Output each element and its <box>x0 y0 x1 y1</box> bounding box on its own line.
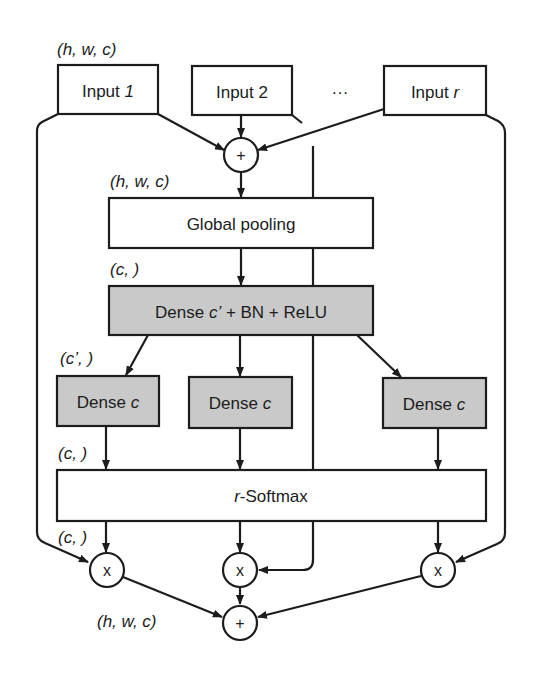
shape-label-after-dense: (c, ) <box>58 444 87 463</box>
multiply-icon: x <box>434 562 442 579</box>
dense-expand-block-r: Dense c <box>383 378 486 428</box>
svg-text:Dense c: Dense c <box>403 395 466 414</box>
dense-var: c’ <box>209 303 222 322</box>
dense-var: c <box>263 394 272 413</box>
svg-text:Input r: Input r <box>411 83 461 102</box>
global-pooling-block: Global pooling <box>109 198 373 248</box>
dense-label: Dense <box>77 393 131 412</box>
connectors <box>37 109 505 617</box>
sum-node-output: + <box>223 606 257 640</box>
input-label: Input <box>82 82 125 101</box>
input-label: Input <box>411 83 454 102</box>
svg-text:Input 2: Input 2 <box>216 83 268 102</box>
shape-label-after-pool: (c, ) <box>110 260 139 279</box>
shape-label-after-softmax: (c, ) <box>58 528 87 547</box>
svg-text:r-Softmax: r-Softmax <box>234 487 308 506</box>
input-index: 2 <box>259 83 268 102</box>
dense-reduce-block: Dense c’ + BN + ReLU <box>109 286 373 335</box>
dense-label: Dense <box>209 394 263 413</box>
mul-node-1: x <box>90 553 124 587</box>
softmax-label: -Softmax <box>240 487 309 506</box>
dense-label: Dense <box>403 395 457 414</box>
plus-icon: + <box>236 147 245 164</box>
global-pooling-label: Global pooling <box>187 215 296 234</box>
dense-var: c <box>131 393 140 412</box>
multiply-icon: x <box>103 562 111 579</box>
plus-icon: + <box>235 615 244 632</box>
shape-label-input: (h, w, c) <box>57 40 117 59</box>
input-label: Input <box>216 83 259 102</box>
sum-node-top: + <box>224 138 258 172</box>
svg-text:Dense c: Dense c <box>209 394 272 413</box>
dense-label: Dense <box>155 303 209 322</box>
dense-expand-block-2: Dense c <box>189 377 292 428</box>
shape-label-after-reduce: (c’, ) <box>60 349 93 368</box>
input-1-block: Input 1 <box>58 65 158 114</box>
shape-label-after-sum: (h, w, c) <box>110 172 170 191</box>
dense-expand-block-1: Dense c <box>57 376 159 426</box>
svg-text:Dense c’ + BN + ReLU: Dense c’ + BN + ReLU <box>155 303 327 322</box>
shape-label-output: (h, w, c) <box>97 612 157 631</box>
multiply-icon: x <box>236 562 244 579</box>
svg-text:Dense c: Dense c <box>77 393 140 412</box>
mul-node-r: x <box>421 553 455 587</box>
input-2-block: Input 2 <box>192 66 292 115</box>
split-attention-diagram: Input 1 Input 2 ··· Input r + Global poo… <box>0 0 536 674</box>
input-r-block: Input r <box>384 66 486 115</box>
dense-suffix: + BN + ReLU <box>221 303 327 322</box>
ellipsis: ··· <box>332 83 349 102</box>
svg-text:Input 1: Input 1 <box>82 82 134 101</box>
mul-node-2: x <box>223 553 257 587</box>
softmax-block: r-Softmax <box>57 470 486 521</box>
input-index: 1 <box>125 82 134 101</box>
dense-var: c <box>457 395 466 414</box>
